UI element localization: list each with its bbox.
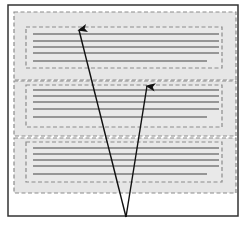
section-3 bbox=[14, 138, 236, 193]
section-1 bbox=[14, 12, 236, 80]
section-2-text-block bbox=[26, 85, 222, 127]
layout-diagram bbox=[0, 0, 244, 239]
section-2 bbox=[14, 81, 236, 136]
